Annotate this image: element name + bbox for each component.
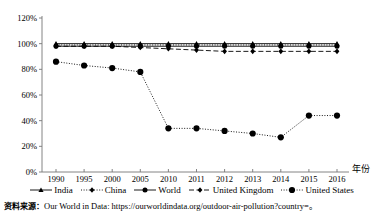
- legend-item-china[interactable]: China: [81, 185, 127, 195]
- data-point-marker: [335, 44, 340, 49]
- data-series-group: [53, 41, 340, 140]
- source-label: 资料来源：: [4, 202, 44, 211]
- data-point-marker: [335, 49, 340, 55]
- data-point-marker: [250, 130, 256, 136]
- data-point-marker: [278, 134, 284, 140]
- chart-legend: IndiaChinaWorldUnited KingdomUnited Stat…: [0, 183, 384, 197]
- data-point-marker: [222, 49, 227, 55]
- legend-label: China: [105, 185, 127, 195]
- data-point-marker: [250, 44, 255, 49]
- y-axis-tick-label: 0%: [26, 167, 37, 177]
- data-point-marker: [278, 44, 283, 49]
- source-note: 资料来源：Our World in Data: https://ourworld…: [4, 199, 382, 211]
- y-axis: 0%20%40%60%80%100%120%: [17, 13, 42, 177]
- data-point-marker: [53, 59, 59, 65]
- legend-item-united-states[interactable]: United States: [281, 185, 353, 195]
- legend-marker-icon: [30, 185, 52, 195]
- legend-marker-icon: [81, 185, 103, 195]
- data-point-marker: [306, 112, 312, 118]
- y-axis-tick-label: 80%: [21, 64, 37, 74]
- legend-label: United States: [305, 185, 353, 195]
- data-point-marker: [165, 125, 171, 131]
- legend-marker-icon: [134, 185, 156, 195]
- y-axis-tick-label: 20%: [21, 141, 37, 151]
- data-point-marker: [193, 125, 199, 131]
- y-axis-tick-label: 40%: [21, 116, 37, 126]
- legend-label: United Kingdom: [213, 185, 274, 195]
- data-point-marker: [197, 187, 202, 193]
- legend-marker-icon: [189, 185, 211, 195]
- series-united-states: [53, 59, 340, 141]
- y-axis-tick-label: 60%: [21, 90, 37, 100]
- data-point-marker: [289, 187, 295, 193]
- legend-item-united-kingdom[interactable]: United Kingdom: [189, 185, 274, 195]
- legend-item-world[interactable]: World: [134, 185, 180, 195]
- y-axis-tick-label: 120%: [17, 13, 37, 23]
- data-point-marker: [109, 65, 115, 71]
- data-point-marker: [137, 69, 143, 75]
- y-axis-tick-label: 100%: [17, 39, 37, 49]
- legend-label: World: [158, 185, 180, 195]
- data-point-marker: [143, 188, 148, 193]
- data-point-marker: [307, 49, 312, 55]
- legend-marker-icon: [281, 185, 303, 195]
- legend-item-india[interactable]: India: [30, 185, 73, 195]
- source-text: Our World in Data: https://ourworldindat…: [44, 201, 318, 211]
- data-point-marker: [81, 62, 87, 68]
- data-point-marker: [222, 128, 228, 134]
- data-point-marker: [194, 47, 199, 53]
- data-point-marker: [278, 49, 283, 55]
- x-axis-label: 年份: [352, 163, 370, 174]
- legend-label: India: [54, 185, 73, 195]
- data-point-marker: [334, 112, 340, 118]
- data-point-marker: [222, 44, 227, 49]
- line-chart-plot: 0%20%40%60%80%100%120% 19901995200020052…: [0, 0, 384, 186]
- x-axis: 1990199520002005201020112012201320142015…: [42, 169, 349, 184]
- data-point-marker: [306, 44, 311, 49]
- data-point-marker: [250, 49, 255, 55]
- chart-container: 0%20%40%60%80%100%120% 19901995200020052…: [0, 0, 384, 216]
- data-point-marker: [89, 187, 94, 193]
